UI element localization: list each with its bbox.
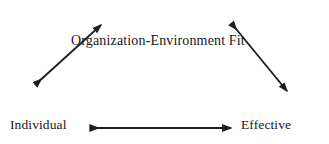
node-organization-environment-fit: Organization-Environment Fit (71, 2, 245, 80)
node-text-line: Organization-Environment Fit (71, 33, 245, 49)
diagram-canvas: Organization-Environment Fit Individual … (0, 0, 329, 144)
node-individual-feelings-of-competence: Individual Feelings of Competence (10, 86, 78, 144)
node-effective-unit-performance: Effective Unit Performance (241, 86, 311, 144)
node-text-line: Individual (10, 117, 78, 133)
node-text-line: Effective (241, 117, 311, 133)
